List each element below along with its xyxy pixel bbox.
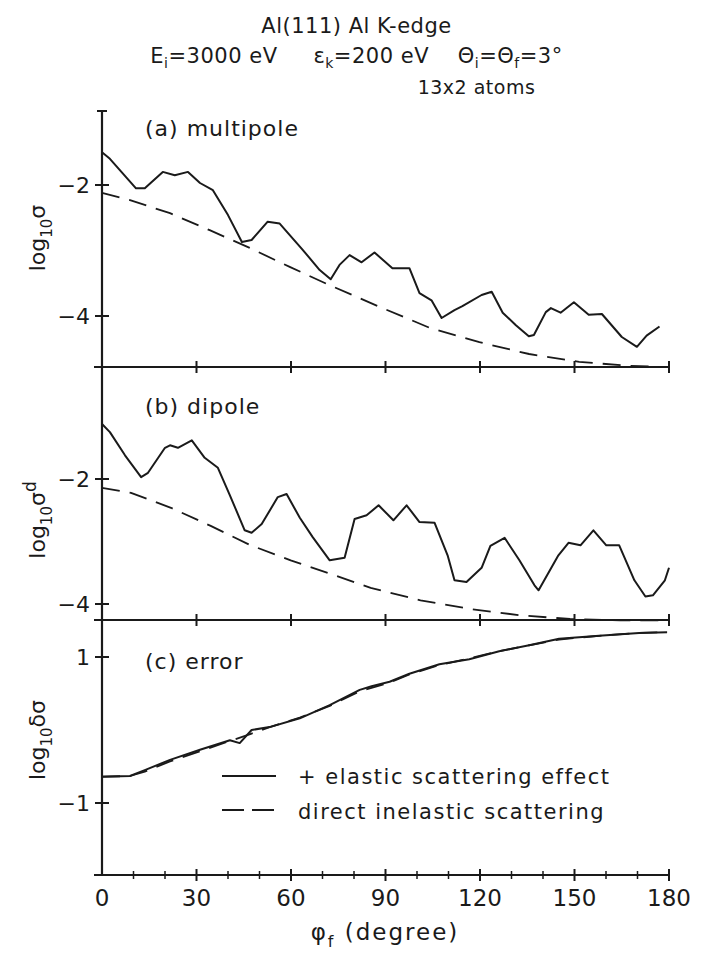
panel-c-y-label: log10δσ <box>25 700 56 780</box>
y-tick-label: 1 <box>76 645 90 670</box>
panel-b-y-label: log10σd <box>20 481 56 558</box>
x-axis-label: φf (degree) <box>311 919 460 951</box>
panel-a-y-label: log10σ <box>25 205 56 272</box>
y-tick-label: −4 <box>58 304 90 329</box>
x-tick-label: 120 <box>458 885 502 911</box>
panel-c-title: (c) error <box>145 649 244 674</box>
x-tick-label: 90 <box>371 885 400 911</box>
panel-b-dashed-curve <box>102 488 667 621</box>
y-tick-label: −1 <box>58 791 90 816</box>
x-tick-label: 180 <box>647 885 691 911</box>
y-tick-label: −4 <box>58 592 90 617</box>
panel-a-dashed-curve <box>102 193 667 367</box>
panel-b-solid-curve <box>102 424 669 597</box>
figure-canvas: −2−4(a) multipolelog10σ−2−4(b) dipolelog… <box>0 0 713 964</box>
legend-dashed-label: direct inelastic scattering <box>298 800 605 824</box>
panel-b-title: (b) dipole <box>145 394 260 419</box>
legend-solid-label: + elastic scattering effect <box>298 765 611 789</box>
curves-group <box>102 152 669 776</box>
x-tick-label: 60 <box>276 885 305 911</box>
y-tick-label: −2 <box>58 173 90 198</box>
panel-a-title: (a) multipole <box>145 116 299 141</box>
x-tick-label: 150 <box>553 885 597 911</box>
panel-a-solid-curve <box>102 152 660 346</box>
y-tick-label: −2 <box>58 467 90 492</box>
x-tick-label: 30 <box>182 885 211 911</box>
x-tick-label: 0 <box>95 885 110 911</box>
